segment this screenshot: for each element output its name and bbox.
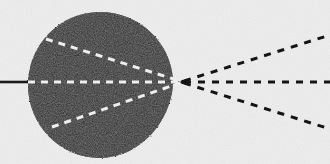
figure-canvas xyxy=(0,0,330,164)
ray-diagram xyxy=(0,0,330,164)
focal-point xyxy=(181,80,185,84)
